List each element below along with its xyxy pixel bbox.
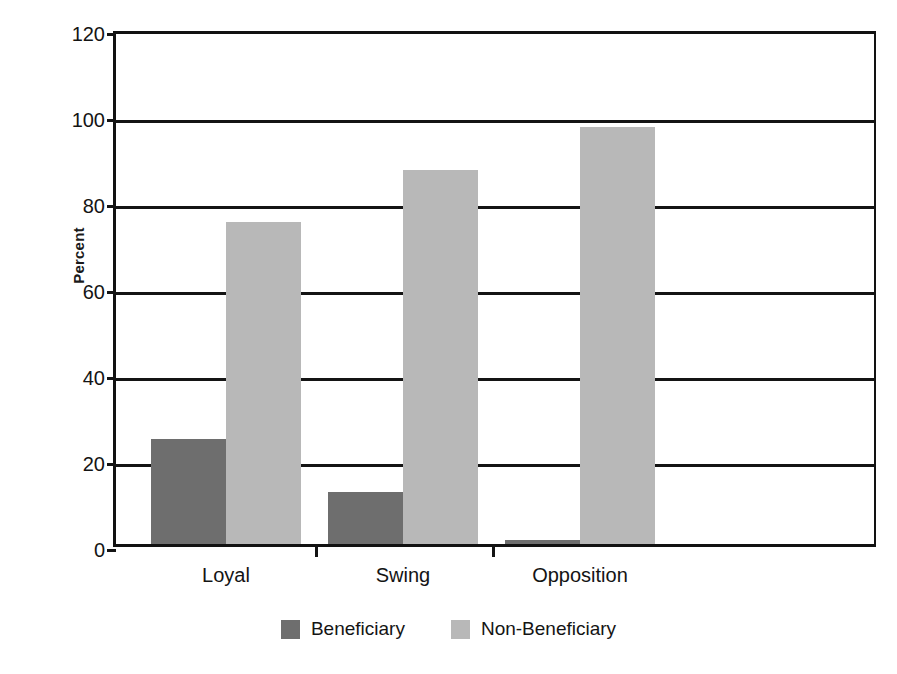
y-axis-tick-label: 60: [83, 282, 105, 302]
gridline: [116, 206, 874, 209]
y-axis-tick-mark: [107, 463, 116, 466]
chart-legend: BeneficiaryNon-Beneficiary: [0, 618, 897, 640]
x-axis-label-swing: Swing: [376, 564, 430, 587]
gridline: [116, 120, 874, 123]
legend-label: Beneficiary: [311, 618, 405, 640]
x-axis-label-opposition: Opposition: [532, 564, 628, 587]
x-axis-tick-mark: [315, 544, 318, 557]
bar-opposition-non-beneficiary: [580, 127, 655, 544]
y-axis-tick-mark: [107, 33, 116, 36]
x-axis-label-loyal: Loyal: [202, 564, 250, 587]
bar-loyal-non-beneficiary: [226, 222, 301, 545]
beneficiary-swatch: [281, 620, 300, 639]
y-axis-tick-mark: [107, 291, 116, 294]
y-axis-tick-label: 80: [83, 196, 105, 216]
y-axis-tick-mark: [107, 205, 116, 208]
bar-opposition-beneficiary: [505, 540, 580, 544]
y-axis-tick-label: 40: [83, 368, 105, 388]
bar-swing-non-beneficiary: [403, 170, 478, 544]
y-axis-tick-mark: [107, 549, 116, 552]
bar-swing-beneficiary: [328, 492, 403, 544]
y-axis-tick-label: 20: [83, 454, 105, 474]
legend-label: Non-Beneficiary: [481, 618, 616, 640]
y-axis-tick-label: 120: [72, 24, 105, 44]
y-axis-tick-mark: [107, 119, 116, 122]
bar-chart-figure: Percent 020406080100120 LoyalSwingOpposi…: [0, 0, 897, 674]
legend-item-non-beneficiary[interactable]: Non-Beneficiary: [451, 618, 616, 640]
x-axis-tick-mark: [492, 544, 495, 557]
bar-loyal-beneficiary: [151, 439, 226, 544]
y-axis-tick-label: 0: [94, 540, 105, 560]
non-beneficiary-swatch: [451, 620, 470, 639]
legend-item-beneficiary[interactable]: Beneficiary: [281, 618, 405, 640]
plot-area: 020406080100120 LoyalSwingOpposition: [113, 31, 876, 547]
y-axis-tick-label: 100: [72, 110, 105, 130]
y-axis-tick-mark: [107, 377, 116, 380]
